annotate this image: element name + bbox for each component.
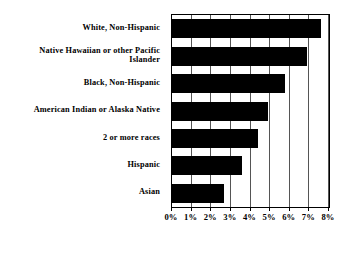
bar-chart: White, Non-HispanicNative Hawaiian or ot… (0, 0, 340, 254)
category-label: Hispanic (0, 160, 160, 170)
x-axis-tick (289, 207, 290, 211)
category-label-line: Native Hawaiian or other Pacific (0, 46, 160, 56)
x-axis-tick-label: 2% (204, 212, 217, 222)
x-axis-tick (250, 207, 251, 211)
x-axis-tick-label: 7% (302, 212, 315, 222)
bar (172, 47, 307, 66)
category-label-line: American Indian or Alaska Native (0, 105, 160, 115)
x-axis-tick-label: 4% (243, 212, 256, 222)
category-label-line: 2 or more races (0, 133, 160, 143)
category-label-line: White, Non-Hispanic (0, 23, 160, 33)
category-label: Native Hawaiian or other PacificIslander (0, 46, 160, 65)
x-axis-tick-labels: 0%1%2%3%4%5%6%7%8% (171, 212, 329, 228)
category-label-line: Asian (0, 187, 160, 197)
category-label-line: Islander (0, 55, 160, 65)
bar (172, 184, 224, 203)
x-axis-tick (210, 207, 211, 211)
category-label: Asian (0, 187, 160, 197)
x-axis-tick (328, 207, 329, 211)
category-label-line: Black, Non-Hispanic (0, 78, 160, 88)
bar (172, 156, 242, 175)
category-label-line: Hispanic (0, 160, 160, 170)
x-axis-tick-label: 6% (282, 212, 295, 222)
x-axis-tick-label: 3% (223, 212, 236, 222)
plot-area (171, 14, 330, 208)
category-axis-labels: White, Non-HispanicNative Hawaiian or ot… (0, 14, 166, 206)
x-axis-tick (230, 207, 231, 211)
x-axis-tick-label: 5% (263, 212, 276, 222)
category-label: 2 or more races (0, 133, 160, 143)
bar (172, 102, 268, 121)
x-axis-tick-label: 0% (164, 212, 177, 222)
x-axis-tick (171, 207, 172, 211)
x-axis-tick (269, 207, 270, 211)
x-axis-tick (191, 207, 192, 211)
bar (172, 74, 285, 93)
bar (172, 19, 321, 38)
category-label: White, Non-Hispanic (0, 23, 160, 33)
bar (172, 129, 258, 148)
category-label: Black, Non-Hispanic (0, 78, 160, 88)
bar-series (172, 15, 329, 207)
category-label: American Indian or Alaska Native (0, 105, 160, 115)
x-axis-tick-label: 1% (184, 212, 197, 222)
x-axis-tick (308, 207, 309, 211)
x-axis-tick-label: 8% (321, 212, 334, 222)
